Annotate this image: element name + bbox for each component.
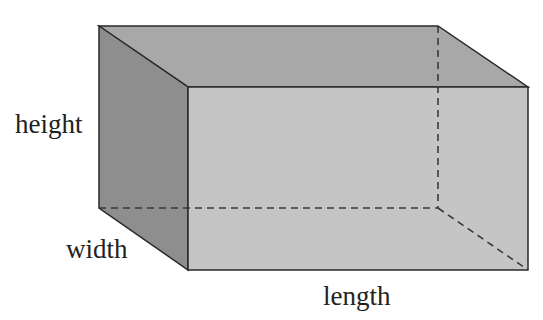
front-face: [188, 87, 528, 270]
height-label: height: [15, 109, 83, 139]
width-label: width: [66, 234, 128, 264]
length-label: length: [323, 281, 391, 311]
prism-diagram: height width length: [0, 0, 543, 320]
